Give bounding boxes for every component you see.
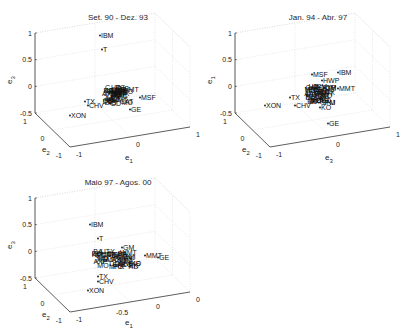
z-tick-label: 1 [28,195,32,202]
z-tick-label: -0.5 [20,275,32,282]
point-label: GM [123,244,134,251]
y-tick-label: -1 [256,152,262,159]
svg-text:DIS: DIS [306,94,318,101]
point-label: GE [329,120,339,127]
point-label: MMT [339,85,356,92]
x-tick-label: -1 [76,151,82,158]
svg-text:UTX: UTX [321,89,335,96]
x-tick-label: 0 [136,141,140,148]
y-tick-label: 1 [23,118,27,125]
point-label: TX [291,94,300,101]
chart-title: Maio 97 - Agos. 00 [85,178,152,187]
x-axis [270,127,390,147]
x-axis-label: e1 [125,153,133,164]
z-tick-label: 1 [228,30,232,37]
y-tick-label: 0 [241,135,245,142]
x-axis [70,292,190,312]
point-label: T [99,235,104,242]
svg-text:DIS: DIS [117,85,129,92]
point-label: MSF [141,94,156,101]
x-tick-label: -1 [276,151,282,158]
svg-text:CAT: CAT [120,98,134,105]
point-label: CHV [99,278,114,285]
plot-panel-2: Jan. 94 - Abr. 9710.50-0.510-1-101e2e3e1… [200,0,400,165]
svg-text:CAT: CAT [101,251,115,258]
y-axis-label: e2 [242,145,250,156]
x-tick-label: 0.5 [196,296,200,303]
z-tick-label: 0.5 [222,56,232,63]
x-axis-label: e1 [125,318,133,329]
point-label: HWP [323,77,340,84]
z-tick-label: 0 [228,83,232,90]
point-label: IBM [91,221,104,228]
y-axis-label: e2 [42,145,50,156]
x-tick-label: 1 [396,131,400,138]
x-tick-label: -0.5 [116,309,128,316]
point-label: XON [266,102,281,109]
y-tick-label: -1 [56,152,62,159]
z-tick-label: 0 [28,248,32,255]
z-tick-label: -0.5 [220,110,232,117]
x-axis [70,127,190,147]
x-tick-label: 0 [156,303,160,310]
plot-panel-3: Maio 97 - Agos. 0010.50-0.510-1-1-0.500.… [0,165,200,330]
y-tick-label: 0 [41,300,45,307]
svg-text:IP: IP [107,87,114,94]
point-label: CHV [89,102,104,109]
z-tick-label: 0 [28,83,32,90]
z-axis-label: e3 [5,75,16,83]
z-tick-label: 0.5 [22,221,32,228]
z-tick-label: 1 [28,30,32,37]
chart-title: Set. 90 - Dez. 93 [88,13,149,22]
plot-panel-1: Set. 90 - Dez. 9310.50-0.510-1-101e2e1e3… [0,0,200,165]
point-label: XON [89,287,104,294]
point-label: MMT [146,252,163,259]
x-tick-label: 0 [336,141,340,148]
y-tick-label: 0 [41,135,45,142]
x-tick-label: -1 [76,316,82,323]
x-axis-label: e3 [325,153,333,164]
z-axis-label: e3 [5,240,16,248]
y-axis-label: e2 [42,310,50,321]
svg-text:CAT: CAT [306,84,320,91]
z-axis-label: e1 [205,75,216,83]
point-label: GE [131,106,141,113]
point-label: KO [131,260,142,267]
y-tick-label: -1 [56,317,62,324]
z-tick-label: -0.5 [20,110,32,117]
point-label: KO [321,104,332,111]
point-label: CHV [296,102,311,109]
chart-title: Jan. 94 - Abr. 97 [289,13,348,22]
point-label: IBM [339,69,352,76]
point-label: DD [111,100,121,107]
point-label: XON [71,112,86,119]
y-tick-label: 1 [23,283,27,290]
point-label: T [103,46,108,53]
z-tick-label: 0.5 [22,56,32,63]
svg-text:IP: IP [101,258,108,265]
point-label: IBM [101,32,114,39]
y-tick-label: 1 [223,118,227,125]
